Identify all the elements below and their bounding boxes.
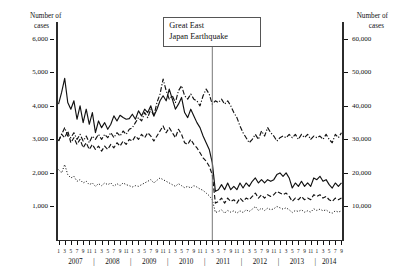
x-axis-tick-mark <box>163 241 164 245</box>
x-axis-month-label: 1 <box>168 248 171 254</box>
x-axis-tick-mark <box>323 241 324 245</box>
x-axis-tick-mark <box>311 241 312 245</box>
x-axis-month-label: 11 <box>124 248 129 254</box>
x-axis-month-label: 9 <box>266 248 269 254</box>
x-axis-tick-mark <box>95 241 96 245</box>
x-axis-tick-mark <box>286 241 287 245</box>
x-axis-month-label: 7 <box>186 248 189 254</box>
x-axis-month-label: 1 <box>131 248 134 254</box>
x-axis-tick-mark <box>212 241 213 245</box>
x-axis-month-label: 1 <box>242 248 245 254</box>
left-axis-tick-label: 4,000 <box>4 102 48 110</box>
x-axis-tick-mark <box>188 241 189 245</box>
x-axis-tick-mark <box>175 241 176 245</box>
x-axis-tick-mark <box>151 241 152 245</box>
x-axis-tick-mark <box>182 241 183 245</box>
x-axis-month-label: 9 <box>82 248 85 254</box>
x-axis-tick-mark <box>126 241 127 245</box>
right-axis-tick-label: 60,000 <box>352 35 394 43</box>
x-axis-year-label: 2007 <box>68 258 82 266</box>
x-axis-month-label: 1 <box>57 248 60 254</box>
x-axis-tick-mark <box>305 241 306 245</box>
x-axis-month-label: 3 <box>137 248 140 254</box>
x-axis-month-label: 3 <box>63 248 66 254</box>
x-axis-month-label: 7 <box>223 248 226 254</box>
x-axis-tick-mark <box>262 241 263 245</box>
x-axis-tick-mark <box>237 241 238 245</box>
x-axis-month-label: 5 <box>291 248 294 254</box>
x-axis-tick-mark <box>71 241 72 245</box>
x-axis-tick-mark <box>89 241 90 245</box>
left-axis-tick-label: 2,000 <box>4 169 48 177</box>
series-line-dotted <box>59 165 342 214</box>
x-axis-tick-mark <box>194 241 195 245</box>
x-axis-tick-mark <box>274 241 275 245</box>
right-axis-tick-label: 50,000 <box>352 68 394 76</box>
x-axis-month-label: 3 <box>211 248 214 254</box>
x-axis-month-label: 3 <box>100 248 103 254</box>
right-axis-tick-mark <box>344 206 348 207</box>
x-axis-month-label: 7 <box>260 248 263 254</box>
x-axis-month-label: 3 <box>285 248 288 254</box>
x-axis-tick-mark <box>65 241 66 245</box>
right-axis-tick-mark <box>344 72 348 73</box>
x-axis-tick-mark <box>169 241 170 245</box>
left-axis-tick-label: 6,000 <box>4 35 48 43</box>
x-axis-month-label: 7 <box>76 248 79 254</box>
x-axis-month-label: 5 <box>143 248 146 254</box>
x-axis-tick-mark <box>138 241 139 245</box>
series-line-solid <box>59 78 342 191</box>
x-axis-tick-mark <box>83 241 84 245</box>
right-axis-tick-mark <box>344 139 348 140</box>
x-axis-tick-mark <box>225 241 226 245</box>
x-axis-month-label: 7 <box>297 248 300 254</box>
right-axis-title-line2: cases <box>357 22 388 32</box>
x-axis-year-separator: | <box>278 258 279 266</box>
right-axis-tick-mark <box>344 39 348 40</box>
left-axis-tick-label: 1,000 <box>4 202 48 210</box>
left-axis-tick-mark <box>50 72 54 73</box>
x-axis-month-label: 9 <box>340 248 343 254</box>
x-axis-month-label: 5 <box>180 248 183 254</box>
x-axis-month-label: 11 <box>197 248 202 254</box>
left-axis-tick-label: 5,000 <box>4 68 48 76</box>
x-axis-tick-mark <box>77 241 78 245</box>
x-axis-tick-mark <box>280 241 281 245</box>
right-axis-tick-mark <box>344 173 348 174</box>
x-axis-year-label: 2010 <box>179 258 193 266</box>
right-axis-tick-mark <box>344 106 348 107</box>
x-axis-month-label: 1 <box>316 248 319 254</box>
plot-area <box>57 22 343 240</box>
x-axis-tick-mark <box>335 241 336 245</box>
x-axis-month-label: 9 <box>156 248 159 254</box>
x-axis-month-label: 9 <box>119 248 122 254</box>
left-axis-title-line1: Number of <box>30 12 61 22</box>
x-axis-tick-mark <box>200 241 201 245</box>
x-axis-year-label: 2009 <box>142 258 156 266</box>
x-axis-year-label: 2012 <box>253 258 267 266</box>
x-axis-year-label: 2014 <box>322 258 336 266</box>
x-axis-month-labels: 1357911135791113579111357911135791113579… <box>0 248 394 257</box>
x-axis-tick-mark <box>132 241 133 245</box>
left-axis-tick-mark <box>50 39 54 40</box>
x-axis-month-label: 1 <box>94 248 97 254</box>
left-axis-tick-mark <box>50 106 54 107</box>
x-axis-tick-mark <box>120 241 121 245</box>
earthquake-annotation-box: Great East Japan Earthquake <box>163 17 261 47</box>
x-axis-year-separator: | <box>93 258 94 266</box>
x-axis-tick-mark <box>108 241 109 245</box>
x-axis-month-label: 1 <box>205 248 208 254</box>
x-axis-month-label: 7 <box>149 248 152 254</box>
x-axis-tick-mark <box>255 241 256 245</box>
left-axis-tick-mark <box>50 206 54 207</box>
x-axis-month-label: 11 <box>161 248 166 254</box>
x-axis-month-label: 7 <box>113 248 116 254</box>
x-axis-tick-mark <box>145 241 146 245</box>
x-axis-month-label: 7 <box>334 248 337 254</box>
x-axis-tick-mark <box>249 241 250 245</box>
series-layer <box>59 78 342 213</box>
x-axis-month-label: 5 <box>70 248 73 254</box>
x-axis-tick-mark <box>268 241 269 245</box>
x-axis-year-labels: 2007|2008|2009|2010|2011|2012|2013|2014 <box>0 258 394 270</box>
x-axis-month-label: 11 <box>271 248 276 254</box>
